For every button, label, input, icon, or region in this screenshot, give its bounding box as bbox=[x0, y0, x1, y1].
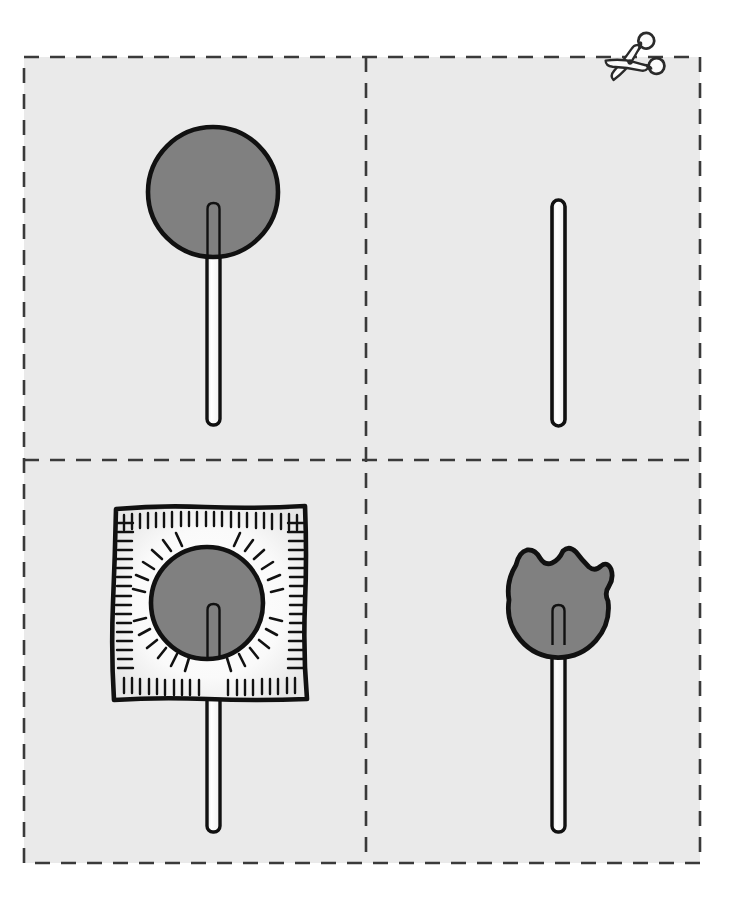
panel-bottom-left[interactable] bbox=[24, 460, 366, 863]
worksheet-page: Cut along the dashed lines bbox=[0, 0, 737, 910]
panel-bottom-right[interactable] bbox=[366, 460, 700, 863]
panel-top-right[interactable] bbox=[366, 57, 700, 460]
panel-top-left[interactable] bbox=[24, 57, 366, 460]
